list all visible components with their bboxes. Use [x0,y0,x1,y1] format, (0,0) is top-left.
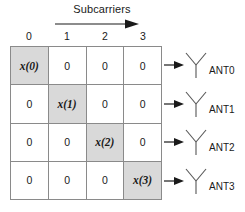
cell-value: 0 [140,98,146,110]
arrow-icon [164,137,184,147]
antenna-row: ANT1 [162,85,245,124]
grid-row: x(0) 0 0 0 [11,47,162,85]
grid-row: 0 0 0 x(3) [11,162,162,200]
arrow-icon [164,99,184,109]
grid-cell: 0 [124,47,162,85]
antenna-icon [183,90,209,118]
cell-value: 0 [102,60,108,72]
arrow-icon [164,60,184,70]
cell-value: x(2) [95,136,114,148]
column-header: 1 [48,29,86,44]
grid-cell: 0 [49,124,87,162]
cell-value: 0 [140,136,146,148]
grid-cell: 0 [124,85,162,123]
grid-cell: 0 [124,124,162,162]
antenna-row: ANT3 [162,162,245,201]
cell-value: 0 [64,136,70,148]
grid-cell: 0 [87,162,125,200]
antenna-label: ANT1 [209,104,235,116]
column-header: 3 [124,29,162,44]
grid-cell: x(3) [124,162,162,200]
grid-cell: 0 [49,47,87,85]
antenna-label: ANT2 [209,142,235,154]
cell-value: 0 [102,174,108,186]
column-headers: 0 1 2 3 [10,29,162,44]
cell-value: 0 [26,136,32,148]
cell-value: x(1) [58,98,77,110]
grid-cell: 0 [11,124,49,162]
antenna-icon [183,128,209,156]
grid-cell: 0 [87,85,125,123]
arrow-icon [164,176,184,186]
antenna-icon [183,167,209,195]
cell-value: 0 [64,174,70,186]
cell-value: 0 [26,174,32,186]
resource-grid: x(0) 0 0 0 0 x(1) 0 0 0 0 x(2) 0 0 0 0 x… [10,46,162,200]
cell-value: 0 [26,98,32,110]
antenna-row: ANT0 [162,46,245,85]
cell-value: 0 [102,98,108,110]
grid-cell: 0 [11,162,49,200]
diagram-title: Subcarriers [52,3,152,15]
antenna-icon [183,51,209,79]
antenna-label: ANT3 [209,181,235,193]
cell-value: x(0) [20,60,39,72]
cell-value: x(3) [133,174,152,186]
cell-value: 0 [140,60,146,72]
column-header: 2 [86,29,124,44]
column-header: 0 [10,29,48,44]
grid-cell: 0 [87,47,125,85]
antenna-column: ANT0 ANT1 ANT2 [162,46,245,200]
grid-cell: x(2) [87,124,125,162]
grid-cell: 0 [49,162,87,200]
grid-cell: 0 [11,85,49,123]
antenna-row: ANT2 [162,123,245,162]
antenna-label: ANT0 [209,65,235,77]
grid-cell: x(0) [11,47,49,85]
grid-row: 0 x(1) 0 0 [11,85,162,123]
grid-row: 0 0 x(2) 0 [11,124,162,162]
cell-value: 0 [64,60,70,72]
subcarrier-antenna-diagram: Subcarriers 0 1 2 3 x(0) 0 0 0 0 x(1) 0 … [0,0,245,212]
grid-cell: x(1) [49,85,87,123]
